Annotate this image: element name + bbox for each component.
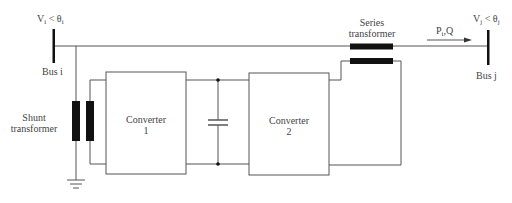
shunt-primary-coil-icon [72, 101, 80, 141]
bus-i-bar [53, 29, 56, 63]
upfc-diagram: Vi < θi Bus i Vj < θj Bus j Pi,Q Series … [0, 0, 512, 203]
ground-icon [67, 180, 85, 188]
series-secondary-coil-icon [350, 58, 393, 64]
converter-2-label: Converter 2 [259, 115, 319, 137]
power-flow-arrow-icon [464, 38, 472, 43]
series-transformer-label: Series transformer [348, 17, 396, 39]
bus-i-voltage-label: Vi < θi [37, 13, 64, 28]
bus-j-bar [487, 30, 490, 65]
shunt-secondary-coil-icon [86, 101, 94, 141]
bus-j-label: Bus j [476, 70, 497, 81]
converter-1-label: Converter 1 [116, 114, 176, 136]
series-primary-coil-icon [350, 44, 393, 50]
bus-i-label: Bus i [42, 66, 63, 77]
shunt-transformer-label: Shunt transformer [4, 112, 64, 134]
bus-j-voltage-label: Vj < θj [473, 13, 500, 28]
power-flow-label: Pi,Q [436, 25, 453, 40]
